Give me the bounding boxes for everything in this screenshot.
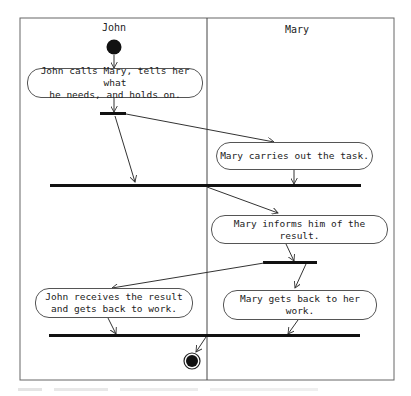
activity-mary-gets-back-to-work: Mary gets back to her work. [223,290,377,320]
activity-mary-carries-out-task: Mary carries out the task. [216,142,373,170]
lane-label-john: John [54,22,174,33]
fork-bar-1 [100,112,126,115]
diagram-canvas [0,0,411,396]
join-bar-2 [49,334,360,337]
join-bar-1 [50,184,361,187]
initial-node-icon [107,40,122,55]
activity-john-receives-result: John receives the result and gets back t… [35,288,193,318]
activity-john-calls-mary: John calls Mary, tells her what he needs… [27,68,203,98]
activity-mary-informs-him: Mary informs him of the result. [211,215,388,244]
cropped-caption [18,388,318,391]
fork-bar-2 [263,261,317,264]
lane-label-mary: Mary [237,24,357,35]
activity-diagram: John Mary John calls Mary, tells her wha… [0,0,411,396]
